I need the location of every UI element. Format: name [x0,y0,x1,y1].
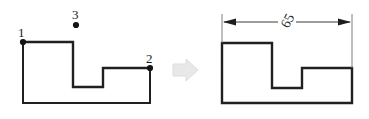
vertex-label-2: 2 [146,52,153,65]
rightward-transition-arrow-icon [173,59,198,81]
diagram-vector-layer [0,0,369,119]
left-figure-step-polyline [23,42,150,87]
dimension-arrowhead-left-icon [223,19,236,26]
left-figure-group [20,22,153,103]
left-figure-outer-wall [23,42,150,103]
right-figure-outline [222,43,352,103]
vertex-label-3: 3 [72,8,79,21]
dimension-arrowhead-right-icon [338,19,351,26]
vertex-label-1: 1 [18,26,25,39]
diagram-canvas: 1 2 3 65 [0,0,369,119]
vertex-dot-3 [73,22,79,28]
